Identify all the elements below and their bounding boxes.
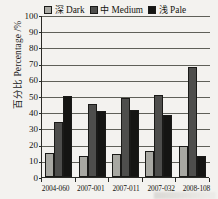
- y-tick-label: 40: [16, 109, 38, 118]
- bar: [121, 98, 130, 177]
- bar-chart-figure: 百分比 Percentage /% 1009080706050403020100…: [0, 0, 218, 199]
- bar: [163, 115, 172, 177]
- legend-label-latin: Pale: [170, 5, 186, 15]
- legend-label-cjk: 中: [100, 3, 109, 16]
- y-tick-label: 20: [16, 141, 38, 150]
- legend-swatch-icon: [148, 6, 156, 14]
- bar: [54, 122, 63, 177]
- x-tick-label: 2007-011: [108, 184, 143, 193]
- x-tick-mark: [209, 178, 210, 182]
- legend-swatch-icon: [44, 6, 52, 14]
- bar: [145, 151, 154, 177]
- x-tick-mark: [175, 178, 176, 182]
- y-tick-label: 90: [16, 28, 38, 37]
- legend-label-latin: Dark: [66, 5, 85, 15]
- bar: [112, 154, 121, 177]
- y-tick-label: 70: [16, 60, 38, 69]
- y-tick-label: 50: [16, 93, 38, 102]
- bar: [130, 110, 139, 177]
- plot-area: [41, 16, 209, 178]
- y-tick-label: 60: [16, 76, 38, 85]
- bar: [63, 96, 72, 177]
- bar: [179, 146, 188, 177]
- x-axis-tick-marks: [41, 178, 209, 183]
- bar: [88, 104, 97, 177]
- legend-item: 深Dark: [44, 3, 85, 16]
- bar-group: [109, 16, 142, 177]
- chart-legend: 深Dark中Medium浅Pale: [44, 3, 186, 16]
- legend-item: 浅Pale: [148, 3, 186, 16]
- x-tick-mark: [142, 178, 143, 182]
- y-tick-label: 30: [16, 125, 38, 134]
- bar-groups: [42, 16, 209, 177]
- bar: [188, 67, 197, 177]
- bar: [197, 156, 206, 177]
- bar: [154, 95, 163, 177]
- x-tick-label: 2004-060: [38, 184, 73, 193]
- x-tick-mark: [41, 178, 42, 182]
- y-axis-tick-labels: 1009080706050403020100: [16, 11, 38, 183]
- legend-label-latin: Medium: [112, 5, 144, 15]
- legend-item: 中Medium: [90, 3, 144, 16]
- legend-label-cjk: 浅: [159, 3, 168, 16]
- y-tick-label: 80: [16, 44, 38, 53]
- bar: [97, 111, 106, 177]
- x-tick-mark: [108, 178, 109, 182]
- legend-label-cjk: 深: [55, 3, 64, 16]
- y-tick-label: 10: [16, 157, 38, 166]
- bar: [45, 153, 54, 177]
- x-tick-mark: [75, 178, 76, 182]
- legend-swatch-icon: [90, 6, 98, 14]
- x-tick-label: 2007-001: [73, 184, 108, 193]
- bar: [79, 156, 88, 177]
- bar-group: [42, 16, 75, 177]
- y-tick-label: 100: [16, 12, 38, 21]
- y-tick-label: 0: [16, 174, 38, 183]
- bar-group: [75, 16, 108, 177]
- bar-group: [176, 16, 209, 177]
- scan-artifact: [154, 192, 216, 199]
- bar-group: [142, 16, 175, 177]
